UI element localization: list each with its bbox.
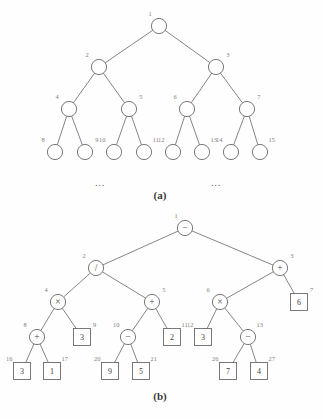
tree-node-panel-a-8[interactable] (47, 144, 62, 159)
node-index-label: 4 (56, 93, 60, 100)
node-value-label: 7 (226, 367, 230, 376)
panel-caption-panel-a: (a) (154, 189, 167, 202)
node-index-label: 15 (269, 136, 275, 143)
node-index-label: 1 (174, 212, 177, 219)
tree-edge (131, 344, 138, 363)
tree-edge (103, 231, 178, 265)
node-index-label: 8 (42, 136, 45, 143)
tree-node-panel-a-10[interactable] (106, 144, 121, 159)
tree-edge (191, 73, 211, 102)
tree-node-panel-a-3[interactable] (208, 59, 223, 74)
node-value-label: 4 (257, 367, 261, 376)
node-index-label: 3 (290, 252, 293, 259)
tree-edge (105, 30, 152, 62)
tree-node-panel-a-7[interactable] (239, 101, 254, 116)
tree-node-panel-b-16[interactable]: 3 (14, 363, 31, 380)
node-index-label: 5 (139, 93, 142, 100)
node-circle (165, 144, 180, 159)
node-index-label: 10 (113, 321, 119, 328)
node-index-label: 8 (24, 321, 27, 328)
tree-node-panel-a-15[interactable] (252, 144, 267, 159)
node-circle (77, 144, 92, 159)
node-value-label: 3 (201, 333, 205, 342)
tree-node-panel-b-12[interactable]: 3 (195, 329, 212, 346)
tree-node-panel-b-4[interactable]: × (50, 294, 65, 309)
tree-node-panel-b-2[interactable]: / (88, 260, 103, 275)
tree-node-panel-b-1[interactable]: − (177, 220, 192, 235)
tree-edge (234, 116, 245, 145)
node-operator-label: + (277, 263, 282, 273)
tree-edge (41, 309, 54, 331)
tree-edge (132, 308, 147, 330)
tree-node-panel-a-6[interactable] (179, 101, 194, 116)
node-index-label: 12 (187, 321, 193, 328)
node-operator-label: + (34, 332, 39, 342)
node-operator-label: − (125, 332, 130, 342)
tree-edge (57, 116, 66, 145)
node-index-label: 12 (158, 136, 164, 143)
tree-node-panel-a-9[interactable] (77, 144, 92, 159)
node-circle (252, 144, 267, 159)
tree-node-panel-a-14[interactable] (223, 144, 238, 159)
node-index-label: 9 (95, 136, 98, 143)
tree-edge (102, 272, 145, 298)
tree-node-panel-b-26[interactable]: 7 (220, 363, 237, 380)
tree-node-panel-a-13[interactable] (194, 144, 209, 159)
node-index-label: 26 (212, 355, 218, 362)
tree-edge (192, 231, 273, 265)
tree-edge (40, 344, 49, 363)
node-index-label: 16 (6, 355, 12, 362)
tree-edge (103, 73, 124, 103)
node-index-label: 5 (162, 286, 165, 293)
node-value-label: 2 (170, 333, 174, 342)
tree-edge (232, 344, 244, 364)
tree-node-panel-a-1[interactable] (151, 18, 166, 33)
node-index-label: 27 (269, 355, 276, 362)
node-index-label: 13 (257, 321, 263, 328)
node-index-label: 21 (151, 355, 157, 362)
tree-node-panel-a-2[interactable] (91, 59, 106, 74)
node-index-label: 10 (99, 136, 105, 143)
tree-edge (25, 344, 34, 363)
node-index-label: 3 (226, 51, 229, 58)
tree-node-panel-b-9[interactable]: 3 (74, 329, 91, 346)
tree-node-panel-b-8[interactable]: + (29, 329, 44, 344)
node-operator-label: − (245, 332, 250, 342)
tree-edge (284, 275, 295, 295)
tree-edge (250, 344, 256, 363)
tree-node-panel-a-5[interactable] (121, 101, 136, 116)
node-operator-label: / (95, 263, 98, 273)
tree-edge (165, 30, 210, 62)
tree-node-panel-b-7[interactable]: 6 (291, 294, 308, 311)
tree-edge (207, 309, 217, 330)
tree-node-panel-a-4[interactable] (61, 101, 76, 116)
node-circle (208, 59, 223, 74)
ellipsis-marker: ... (211, 176, 221, 188)
tree-node-panel-b-20[interactable]: 9 (102, 363, 119, 380)
tree-node-panel-a-12[interactable] (165, 144, 180, 159)
node-index-label: 7 (310, 286, 314, 293)
tree-node-panel-b-11[interactable]: 2 (164, 329, 181, 346)
tree-edge (62, 308, 77, 330)
tree-node-panel-b-21[interactable]: 5 (133, 363, 150, 380)
tree-node-panel-b-13[interactable]: − (240, 329, 255, 344)
tree-node-panel-b-27[interactable]: 4 (251, 363, 268, 380)
tree-node-panel-b-5[interactable]: + (144, 294, 159, 309)
node-circle (47, 144, 62, 159)
tree-node-panel-b-6[interactable]: × (212, 294, 227, 309)
annotations-layer: 123456789101112131415......(a)1234567891… (6, 10, 314, 403)
tree-node-panel-b-3[interactable]: + (272, 260, 287, 275)
node-circle (151, 18, 166, 33)
node-value-label: 6 (297, 298, 301, 307)
tree-node-panel-b-17[interactable]: 1 (44, 363, 61, 380)
node-index-label: 6 (174, 93, 177, 100)
tree-node-panel-b-10[interactable]: − (120, 329, 135, 344)
node-index-label: 7 (257, 93, 261, 100)
tree-edge (221, 73, 243, 103)
node-circle (61, 101, 76, 116)
tree-edge (132, 116, 142, 145)
node-circle (223, 144, 238, 159)
node-operator-label: + (149, 297, 154, 307)
tree-node-panel-a-11[interactable] (136, 144, 151, 159)
tree-figure-svg: −/+×+×6+3−23−319574 12345678910111213141… (0, 0, 323, 419)
